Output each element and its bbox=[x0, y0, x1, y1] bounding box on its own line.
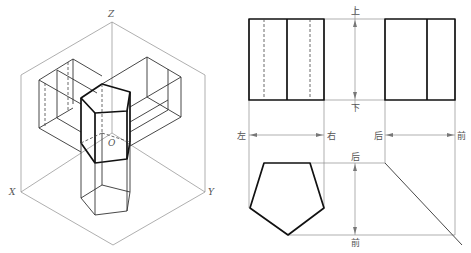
side-view bbox=[385, 19, 455, 100]
projection-diagram: Z X Y O 上 下 bbox=[0, 0, 471, 253]
y-axis bbox=[112, 133, 205, 192]
label-top-back: 后 bbox=[351, 152, 360, 162]
top-view-pentagon bbox=[250, 163, 324, 235]
origin-label: O bbox=[108, 138, 116, 148]
y-axis-label: Y bbox=[208, 187, 215, 197]
isometric-view: Z X Y O bbox=[8, 9, 215, 245]
label-side-front: 前 bbox=[457, 130, 466, 141]
miter-line bbox=[385, 163, 462, 245]
label-left: 左 bbox=[237, 130, 246, 141]
label-right: 右 bbox=[327, 130, 336, 141]
pentagonal-prism bbox=[81, 84, 130, 215]
z-axis-label: Z bbox=[107, 9, 115, 19]
drawing-canvas: Z X Y O 上 下 bbox=[0, 0, 471, 253]
orthographic-views: 上 下 左 右 后 前 后 前 bbox=[237, 6, 466, 248]
label-side-back: 后 bbox=[374, 131, 383, 141]
left-arm bbox=[39, 59, 102, 152]
right-arm bbox=[102, 57, 181, 146]
label-top-front: 前 bbox=[351, 237, 360, 248]
label-bottom: 下 bbox=[351, 103, 360, 113]
label-top: 上 bbox=[351, 6, 360, 16]
x-axis-label: X bbox=[8, 187, 16, 197]
front-view bbox=[249, 19, 324, 100]
